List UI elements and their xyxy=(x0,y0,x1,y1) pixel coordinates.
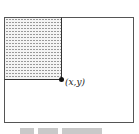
point-label: (x,y) xyxy=(65,77,85,87)
shaded-region xyxy=(4,17,62,80)
corner-point xyxy=(59,77,64,82)
caption-block xyxy=(62,128,102,134)
caption-block xyxy=(38,128,58,134)
figure-caption xyxy=(20,128,120,134)
caption-block xyxy=(20,128,34,134)
